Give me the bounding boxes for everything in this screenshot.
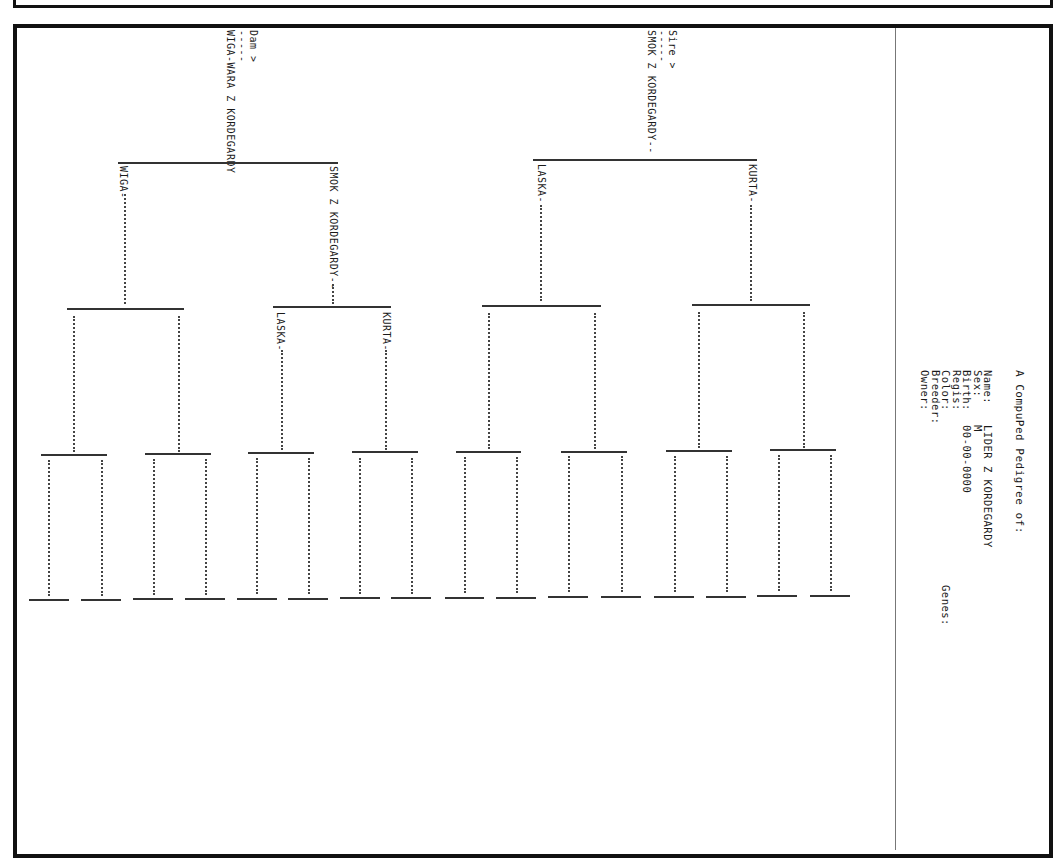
g4-line-9: [445, 597, 484, 599]
bracket-l2-3: [482, 305, 601, 307]
g4-connector-14: [726, 456, 728, 592]
sire-dashes: -----: [657, 30, 667, 63]
breeder-label: Breeder:: [931, 370, 941, 425]
dam-bracket: [118, 162, 338, 164]
bracket-l3-3: [248, 452, 314, 454]
g3-connector-1: [73, 316, 75, 452]
sire-sire-connector: [750, 205, 752, 301]
g4-line-5: [237, 598, 277, 600]
bracket-l3-4: [352, 451, 418, 453]
dam-marker: Dam >: [248, 30, 258, 63]
bracket-l3-6: [561, 451, 627, 453]
g3-connector-8: [803, 312, 805, 448]
g4-line-16: [810, 595, 850, 597]
dam-sire-connector: [332, 284, 334, 304]
g3-connector-4: [385, 350, 387, 450]
info-panel-divider: [895, 28, 896, 850]
g4-connector-3: [153, 459, 155, 595]
bracket-l2-1: [67, 308, 184, 310]
g3-connector-6: [594, 313, 596, 449]
g4-connector-11: [568, 456, 570, 592]
pedigree-title: A CompuPed Pedigree of:: [1014, 370, 1024, 534]
regis-label: Regis:: [952, 370, 962, 411]
sire-name: SMOK Z KORDEGARDY--: [646, 30, 656, 154]
name-value: LIDER Z KORDEGARDY: [983, 425, 993, 548]
g4-line-10: [496, 597, 536, 599]
genes-label: Genes:: [941, 585, 951, 626]
g4-connector-5: [256, 458, 258, 594]
g3-connector-2: [178, 316, 180, 452]
dam-name: WIGA-WARA Z KORDEGARDY: [225, 30, 235, 173]
bracket-l3-7: [666, 450, 732, 452]
g4-connector-15: [778, 455, 780, 591]
g4-line-15: [757, 595, 797, 597]
g4-connector-7: [359, 458, 361, 594]
g4-connector-13: [674, 456, 676, 592]
g4-connector-1: [48, 460, 50, 596]
g4-line-6: [288, 598, 328, 600]
bracket-l2-4: [692, 304, 810, 306]
birth-value: 00-00-0000: [962, 425, 972, 493]
g4-line-2: [81, 599, 121, 601]
g4-line-13: [654, 596, 694, 598]
g4-line-4: [185, 598, 225, 600]
g4-line-8: [391, 597, 431, 599]
bracket-l2-2: [273, 306, 391, 308]
sex-label: Sex:: [973, 370, 983, 397]
bracket-l3-2: [145, 453, 211, 455]
dam-sire-dam-name: LASKA-: [275, 312, 285, 351]
bracket-l3-8: [770, 449, 836, 451]
g4-connector-4: [205, 459, 207, 595]
g4-connector-12: [621, 456, 623, 592]
sire-dam-name: LASKA-: [536, 164, 546, 203]
sire-dam-connector: [540, 205, 542, 301]
bracket-l3-1: [41, 454, 107, 456]
dam-sire-sire-name: KURTA-: [381, 312, 391, 351]
g4-connector-6: [308, 458, 310, 594]
birth-label: Birth:: [962, 370, 972, 411]
color-label: Color:: [941, 370, 951, 411]
dam-dam-name: WIGA-: [118, 166, 128, 199]
name-label: Name:: [983, 370, 993, 404]
dam-dashes: -----: [237, 30, 247, 63]
owner-label: Owner:: [920, 370, 930, 411]
g4-line-12: [601, 596, 641, 598]
sire-sire-name: KURTA-: [747, 164, 757, 203]
sex-value: M: [973, 425, 983, 432]
dam-dam-connector: [124, 194, 126, 304]
bracket-l3-5: [456, 451, 521, 453]
g4-line-14: [706, 596, 746, 598]
g4-connector-2: [101, 460, 103, 596]
sire-bracket: [533, 159, 757, 161]
g4-connector-16: [830, 455, 832, 591]
g4-connector-9: [464, 457, 466, 593]
g4-line-1: [29, 599, 69, 601]
g4-line-7: [340, 597, 380, 599]
g3-connector-7: [698, 312, 700, 448]
g4-connector-10: [516, 457, 518, 593]
g3-connector-3: [281, 350, 283, 450]
sire-marker: Sire >: [667, 30, 677, 69]
g3-connector-5: [488, 313, 490, 449]
pedigree-frame: [13, 24, 1053, 858]
g4-line-11: [548, 596, 588, 598]
dam-sire-name: SMOK Z KORDEGARDY--: [328, 166, 338, 290]
previous-page-frame: [13, 0, 1053, 8]
g4-line-3: [133, 598, 173, 600]
g4-connector-8: [411, 458, 413, 594]
